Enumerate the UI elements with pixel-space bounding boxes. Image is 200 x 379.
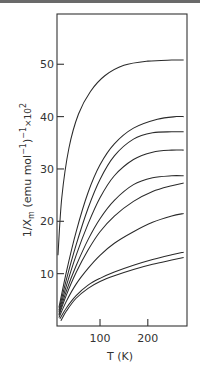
y-label-times: ×10 (23, 108, 33, 127)
y-axis-label: 1/Xm (emu mol−1)−1×102 (19, 103, 36, 237)
series-line-curve-1 (58, 60, 184, 255)
y-tick-label: 10 (40, 268, 54, 281)
y-label-sub: m (27, 211, 36, 219)
chart: 1020304050 100200 T (K) 1/Xm (emu mol−1)… (0, 0, 200, 379)
y-label-exp: 2 (19, 103, 28, 108)
plot-frame (57, 14, 187, 326)
series-line-curve-3 (59, 132, 184, 311)
x-tick-label: 100 (90, 332, 111, 345)
y-tick-label: 20 (40, 215, 54, 228)
series-line-curve-4 (59, 150, 184, 312)
x-axis-label: T (K) (106, 350, 133, 363)
y-tick-label: 50 (40, 58, 54, 71)
series-line-curve-8 (60, 252, 184, 318)
y-tick-label: 40 (40, 111, 54, 124)
curves-group (58, 60, 184, 321)
y-label-unit: (emu mol (21, 155, 34, 211)
x-tick-label: 200 (137, 332, 158, 345)
series-line-curve-2 (59, 116, 184, 307)
x-ticks: 100200 (90, 319, 159, 345)
y-label-main: 1/X (21, 218, 34, 237)
y-tick-label: 30 (40, 163, 54, 176)
series-line-curve-6 (59, 183, 184, 315)
y-label-sup2: −1 (19, 127, 28, 139)
y-label-sup: −1 (19, 143, 28, 155)
svg-text:1/Xm (emu mol−1)−1×102: 1/Xm (emu mol−1)−1×102 (19, 103, 36, 237)
series-line-curve-7 (59, 213, 184, 317)
y-ticks: 1020304050 (40, 58, 64, 280)
